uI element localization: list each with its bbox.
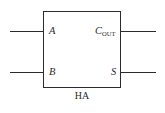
port-label-cout-base: C [95,25,102,36]
output-wire-cout [121,31,156,32]
input-wire-a [10,31,44,32]
input-wire-b [10,72,44,73]
port-label-s: S [111,67,116,78]
output-wire-s [121,72,156,73]
block-caption: HA [43,90,121,101]
port-label-cout-subscript: OUT [102,30,116,37]
port-label-b: B [49,67,55,78]
port-label-a: A [49,26,55,37]
half-adder-diagram: A B COUT S HA [0,0,165,113]
port-label-cout: COUT [95,26,116,38]
